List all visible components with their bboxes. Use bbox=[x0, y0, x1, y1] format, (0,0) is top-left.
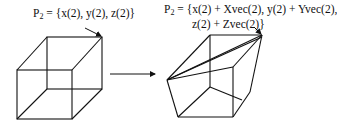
right-label-pointer-arrow bbox=[254, 27, 261, 34]
cube-wireframe bbox=[17, 37, 102, 119]
left-label-pointer-arrow bbox=[85, 28, 101, 36]
deformed-cube-wireframe bbox=[167, 35, 262, 117]
diagram-canvas bbox=[0, 0, 337, 126]
